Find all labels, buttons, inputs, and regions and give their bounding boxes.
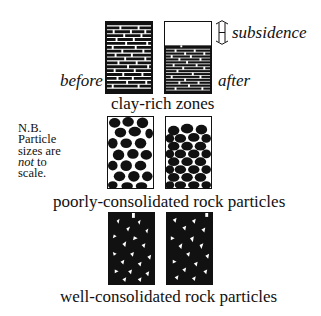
- clay-compressed-pattern: [165, 22, 211, 93]
- subsidence-arrow-icon: [215, 20, 229, 45]
- well-consolidated-before-box: [108, 212, 155, 285]
- poorly-consolidated-after-box: [165, 116, 212, 189]
- scale-note: N.B. Particle sizes are not to scale.: [18, 123, 61, 179]
- subsidence-label: subsidence: [232, 24, 307, 41]
- tight-particles-pattern: [167, 213, 212, 284]
- caption-clay-rich-zones: clay-rich zones: [111, 95, 214, 112]
- clay-before-box: [105, 21, 153, 94]
- well-consolidated-after-box: [166, 212, 213, 285]
- caption-poorly-consolidated: poorly-consolidated rock particles: [53, 193, 285, 210]
- clay-layers-pattern: [106, 22, 152, 93]
- before-label: before: [60, 72, 103, 89]
- note-line: scale.: [18, 168, 61, 179]
- poorly-consolidated-before-box: [107, 116, 154, 189]
- packed-particles-pattern: [166, 117, 211, 188]
- after-label: after: [218, 72, 250, 89]
- loose-particles-pattern: [108, 117, 153, 188]
- tight-particles-pattern: [109, 213, 154, 284]
- clay-after-box: [164, 21, 212, 94]
- caption-well-consolidated: well-consolidated rock particles: [60, 288, 277, 305]
